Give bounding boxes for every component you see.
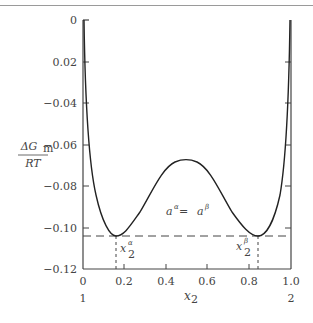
svg-text:0.8: 0.8 [240,275,258,288]
axes [83,20,291,269]
svg-text:2: 2 [128,248,135,261]
svg-text:ΔG: ΔG [20,140,38,153]
svg-text:−0.04: −0.04 [43,97,77,110]
gibbs-curve [84,20,290,236]
x-beta-label: x β 2 [236,237,251,259]
gibbs-energy-chart: 0 0.02 −0.04 −0.06 −0.08 −0.10 −0.12 0 0… [0,0,313,323]
svg-text:1.0: 1.0 [282,275,300,288]
svg-text:β: β [243,237,248,245]
svg-text:a: a [197,205,204,218]
y-ticks [83,62,291,269]
svg-text:m: m [43,142,54,155]
svg-text:0.02: 0.02 [53,56,78,69]
svg-text:0: 0 [80,275,87,288]
svg-text:α: α [128,239,133,247]
svg-text:0.4: 0.4 [157,275,175,288]
svg-text:−0.08: −0.08 [43,180,77,193]
x-axis-label: x 2 [184,289,198,306]
svg-text:2: 2 [288,292,295,305]
x-alpha-label: x α 2 [120,239,135,261]
svg-text:2: 2 [244,246,251,259]
svg-text:=: = [179,205,188,218]
svg-text:−0.10: −0.10 [43,222,77,235]
svg-text:1: 1 [80,292,87,305]
svg-text:a: a [166,205,173,218]
svg-text:0: 0 [70,14,77,27]
equality-annotation: a α = a β [166,203,209,218]
svg-text:x: x [236,240,243,253]
svg-text:β: β [204,203,209,211]
svg-text:x: x [184,289,191,303]
svg-text:x: x [120,242,127,255]
svg-text:−0.12: −0.12 [43,263,77,276]
y-axis-label: ΔG m RT [18,140,54,170]
svg-text:2: 2 [191,293,198,306]
svg-text:0.6: 0.6 [198,275,216,288]
svg-text:RT: RT [24,157,42,170]
svg-text:0.2: 0.2 [115,275,133,288]
